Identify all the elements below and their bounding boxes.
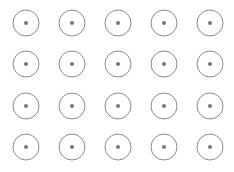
target-circle-icon [59,51,85,77]
center-dot [70,62,74,66]
target-circle-icon [13,10,39,36]
target-circle-icon [151,93,177,119]
target-circle-icon [105,134,131,160]
center-dot [116,62,120,66]
center-dot [208,62,212,66]
target-circle-icon [105,93,131,119]
target-circle-icon [59,10,85,36]
center-dot [162,145,166,149]
center-dot [24,145,28,149]
target-circle-icon [151,51,177,77]
center-dot [208,21,212,25]
target-circle-icon [197,134,223,160]
target-circle-icon [151,134,177,160]
center-dot [70,145,74,149]
center-dot [162,104,166,108]
center-dot [70,104,74,108]
center-dot [116,21,120,25]
center-dot [116,145,120,149]
circle-grid [0,0,234,172]
target-circle-icon [197,51,223,77]
center-dot [116,104,120,108]
target-circle-icon [59,93,85,119]
target-circle-icon [13,134,39,160]
center-dot [208,145,212,149]
target-circle-icon [197,93,223,119]
center-dot [24,21,28,25]
center-dot [162,62,166,66]
target-circle-icon [105,51,131,77]
target-circle-icon [13,51,39,77]
target-circle-icon [197,10,223,36]
target-circle-icon [13,93,39,119]
target-circle-icon [151,10,177,36]
center-dot [162,21,166,25]
target-circle-icon [59,134,85,160]
center-dot [208,104,212,108]
center-dot [24,62,28,66]
center-dot [24,104,28,108]
target-circle-icon [105,10,131,36]
center-dot [70,21,74,25]
